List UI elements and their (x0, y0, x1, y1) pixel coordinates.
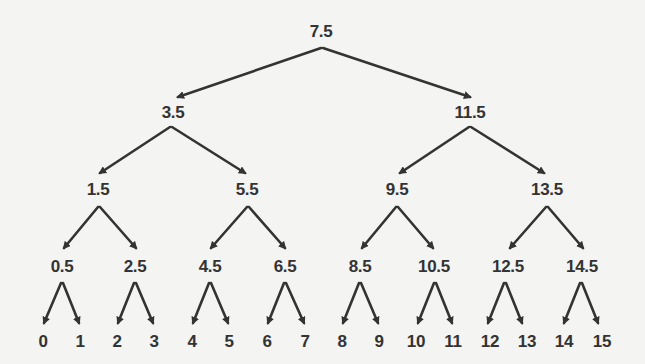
arrow-icon-edge-n14_5-to-n14 (564, 283, 580, 323)
leaf-node-4: 4 (187, 332, 196, 352)
leaf-node-6: 6 (262, 332, 271, 352)
leaf-node-12: 12 (481, 332, 499, 352)
binary-tree-diagram: 7.53.511.51.55.59.513.50.52.54.56.58.510… (0, 0, 645, 364)
arrow-icon-edge-n5_5-to-n6_5 (249, 207, 285, 248)
tree-node-5-5: 5.5 (236, 180, 259, 200)
leaf-node-5: 5 (224, 332, 233, 352)
leaf-node-11: 11 (444, 332, 461, 352)
leaf-node-10: 10 (407, 332, 425, 352)
arrow-icon-edge-n14_5-to-n15 (582, 283, 598, 323)
tree-node-2-5: 2.5 (124, 257, 147, 277)
leaf-node-14: 14 (555, 332, 573, 352)
arrow-icon-edge-n0_5-to-n1 (63, 283, 79, 323)
leaf-node-2: 2 (112, 332, 121, 352)
leaf-node-13: 13 (518, 332, 536, 352)
arrow-icon-edge-n5_5-to-n4_5 (211, 207, 247, 248)
arrow-icon-edge-n1_5-to-n0_5 (64, 207, 98, 248)
leaf-node-7: 7 (300, 332, 309, 352)
tree-node-7-5: 7.5 (310, 22, 333, 42)
arrow-icon-edge-n13_5-to-n14_5 (548, 207, 583, 248)
arrow-icon-edge-n2_5-to-n2 (118, 283, 134, 323)
arrow-icon-edge-n9_5-to-n10_5 (398, 207, 433, 248)
arrow-icon-edge-n12_5-to-n13 (506, 283, 522, 323)
arrow-icon-edge-n10_5-to-n10 (418, 283, 434, 323)
tree-node-9-5: 9.5 (386, 180, 409, 200)
leaf-node-9: 9 (374, 332, 383, 352)
arrow-icon-edge-n0_5-to-n0 (44, 283, 61, 323)
arrow-icon-edge-n2_5-to-n3 (136, 283, 153, 323)
arrow-icon-edge-n10_5-to-n11 (436, 283, 452, 323)
tree-node-0-5: 0.5 (51, 257, 74, 277)
arrow-icon-edge-n3_5-to-n5_5 (172, 127, 245, 173)
leaf-node-1: 1 (75, 332, 84, 352)
tree-node-14-5: 14.5 (566, 257, 598, 277)
arrow-icon-edge-n11_5-to-n13_5 (471, 127, 544, 173)
arrow-icon-edge-n7_5-to-n3_5 (178, 48, 321, 97)
arrow-icon-edge-n1_5-to-n2_5 (100, 207, 136, 248)
arrow-icon-edge-n9_5-to-n8_5 (362, 207, 396, 248)
arrow-icon-edge-n12_5-to-n12 (488, 283, 504, 323)
arrow-icon-edge-n6_5-to-n6 (268, 283, 284, 323)
tree-node-3-5: 3.5 (162, 103, 185, 123)
arrow-icon-edge-n4_5-to-n4 (193, 283, 209, 323)
leaf-node-0: 0 (38, 332, 47, 352)
arrow-icon-edge-n8_5-to-n8 (343, 283, 359, 323)
tree-node-8-5: 8.5 (349, 257, 372, 277)
arrow-icon-edge-n6_5-to-n7 (286, 283, 304, 323)
arrow-icon-edge-n8_5-to-n9 (361, 283, 378, 323)
arrow-icon-edge-n11_5-to-n9_5 (400, 127, 469, 173)
tree-node-1-5: 1.5 (87, 180, 110, 200)
arrow-icon-edge-n7_5-to-n11_5 (323, 48, 470, 97)
tree-node-6-5: 6.5 (274, 257, 297, 277)
tree-node-13-5: 13.5 (531, 180, 563, 200)
tree-node-11-5: 11.5 (455, 103, 486, 123)
arrow-icon-edge-n4_5-to-n5 (211, 283, 228, 323)
leaf-node-8: 8 (337, 332, 346, 352)
tree-node-12-5: 12.5 (492, 257, 524, 277)
leaf-node-15: 15 (593, 332, 611, 352)
arrow-icon-edge-n13_5-to-n12_5 (510, 207, 546, 248)
tree-node-4-5: 4.5 (199, 257, 222, 277)
tree-node-10-5: 10.5 (418, 257, 450, 277)
arrow-icon-edge-n3_5-to-n1_5 (100, 127, 170, 173)
leaf-node-3: 3 (149, 332, 158, 352)
